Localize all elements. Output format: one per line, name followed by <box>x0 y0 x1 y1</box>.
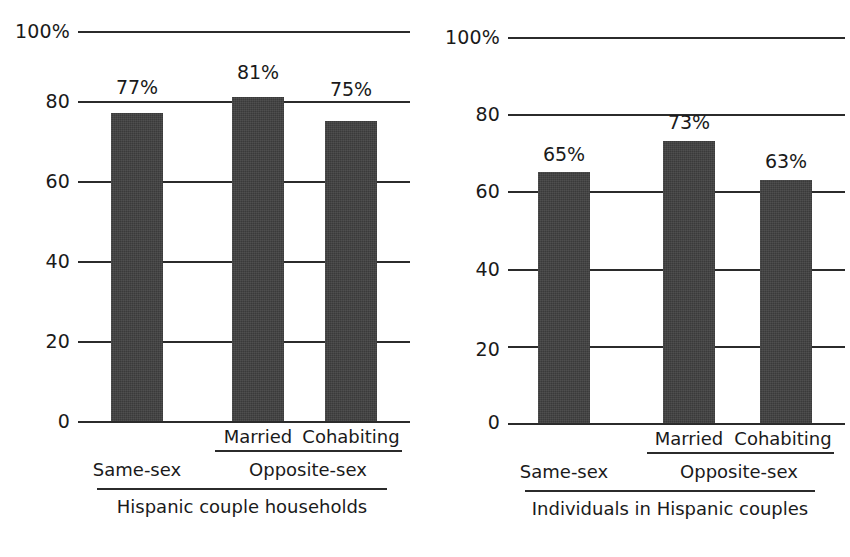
y-tick-label-0: 0 <box>0 412 70 431</box>
bar-chart-hispanic-couple-households: 100% 80 60 40 20 0 77% 81% 75% Married C… <box>0 0 425 557</box>
y-tick-label-100: 100% <box>0 22 70 41</box>
chart-caption-left: Hispanic couple households <box>62 497 422 517</box>
y-tick-label-0: 0 <box>430 413 500 432</box>
bar-chart-individuals-in-hispanic-couples: 100% 80 60 40 20 0 65% 73% 63% Married C… <box>425 0 850 557</box>
y-tick-label-60: 60 <box>430 182 500 201</box>
y-tick-label-80: 80 <box>430 105 500 124</box>
y-tick-label-100: 100% <box>430 28 500 47</box>
group-rule-all <box>97 488 387 490</box>
y-tick-label-20: 20 <box>0 332 70 351</box>
gridline-0 <box>78 421 410 423</box>
group-label-opposite-sex: Opposite-sex <box>243 460 373 480</box>
bar-same-sex <box>538 172 590 423</box>
category-label-cohabiting: Cohabiting <box>728 429 838 449</box>
y-tick-label-80: 80 <box>0 92 70 111</box>
bar-value-label-same-sex: 65% <box>524 145 604 164</box>
bar-cohabiting <box>760 180 812 423</box>
bar-same-sex <box>111 113 163 421</box>
bar-value-label-married: 81% <box>218 63 298 82</box>
bar-cohabiting <box>325 121 377 421</box>
category-label-cohabiting: Cohabiting <box>296 427 406 447</box>
group-label-opposite-sex: Opposite-sex <box>674 462 804 482</box>
bar-value-label-cohabiting: 75% <box>311 80 391 99</box>
subgroup-rule-opposite-sex <box>647 452 834 454</box>
category-label-married: Married <box>218 427 298 447</box>
bar-value-label-cohabiting: 63% <box>746 152 826 171</box>
group-label-same-sex: Same-sex <box>87 460 187 480</box>
group-rule-all <box>525 490 815 492</box>
y-tick-label-20: 20 <box>430 340 500 359</box>
subgroup-rule-opposite-sex <box>215 450 402 452</box>
group-label-same-sex: Same-sex <box>514 462 614 482</box>
category-label-married: Married <box>649 429 729 449</box>
bar-married <box>232 97 284 421</box>
y-tick-label-40: 40 <box>430 260 500 279</box>
y-tick-label-40: 40 <box>0 252 70 271</box>
gridline-100 <box>508 37 845 39</box>
bar-value-label-same-sex: 77% <box>97 78 177 97</box>
bar-married <box>663 141 715 423</box>
y-tick-label-60: 60 <box>0 172 70 191</box>
gridline-100 <box>78 31 410 33</box>
gridline-0 <box>508 423 845 425</box>
chart-caption-right: Individuals in Hispanic couples <box>490 499 850 519</box>
bar-value-label-married: 73% <box>649 113 729 132</box>
